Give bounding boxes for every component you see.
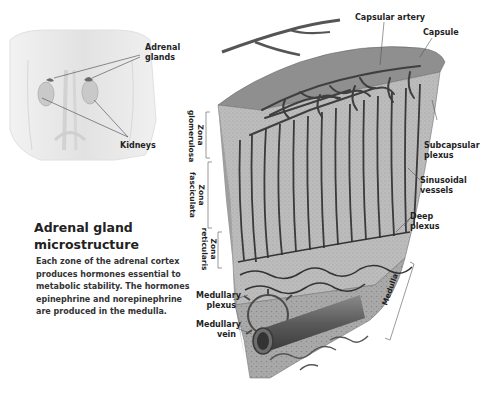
label-capsular-artery: Capsular artery bbox=[355, 13, 425, 23]
right-kidney bbox=[82, 80, 98, 104]
label-glomerulosa-line2: glomerulosa bbox=[187, 110, 196, 160]
label-sinusoidal-vessels: Sinusoidal vessels bbox=[420, 176, 467, 196]
label-subcapsular-line1: Subcapsular bbox=[424, 141, 480, 151]
label-capsule: Capsule bbox=[423, 28, 459, 38]
adrenal-tissue-block bbox=[206, 20, 445, 378]
label-medullary-vein: Medullary vein bbox=[196, 320, 236, 340]
label-medullary-vein-line2: vein bbox=[196, 330, 236, 340]
description-line: metabolic stability. The hormones bbox=[36, 281, 196, 294]
label-medullary-plexus: Medullary plexus bbox=[196, 291, 236, 311]
description-line: Each zone of the adrenal cortex bbox=[36, 256, 196, 269]
label-zona-fasciculata: Zona fasciculata bbox=[188, 170, 206, 220]
label-reticularis-line1: Zona bbox=[209, 224, 218, 274]
label-subcapsular-line2: plexus bbox=[424, 151, 480, 161]
figure-title: Adrenal gland microstructure bbox=[34, 219, 139, 253]
label-reticularis-line2: reticularis bbox=[200, 224, 209, 274]
label-subcapsular-plexus: Subcapsular plexus bbox=[424, 141, 480, 161]
label-medullary-plexus-line1: Medullary bbox=[196, 291, 236, 301]
label-deep-line1: Deep bbox=[410, 212, 440, 222]
label-zona-reticularis: Zona reticularis bbox=[200, 224, 218, 274]
label-deep-plexus: Deep plexus bbox=[410, 212, 440, 232]
label-kidneys: Kidneys bbox=[120, 141, 156, 151]
label-glomerulosa-line1: Zona bbox=[196, 110, 205, 160]
description-line: are produced in the medulla. bbox=[36, 306, 196, 319]
label-sinusoidal-line1: Sinusoidal bbox=[420, 176, 467, 186]
label-adrenal-glands: Adrenal glands bbox=[145, 43, 180, 63]
figure-description: Each zone of the adrenal cortex produces… bbox=[36, 256, 196, 319]
label-medullary-vein-line1: Medullary bbox=[196, 320, 236, 330]
figure-title-line2: microstructure bbox=[34, 236, 139, 253]
label-deep-line2: plexus bbox=[410, 222, 440, 232]
capsular-artery-vessel bbox=[222, 20, 340, 52]
description-line: epinephrine and norepinephrine bbox=[36, 294, 196, 307]
label-adrenal-glands-line1: Adrenal bbox=[145, 43, 180, 53]
label-zona-glomerulosa: Zona glomerulosa bbox=[187, 110, 205, 160]
label-sinusoidal-line2: vessels bbox=[420, 186, 467, 196]
figure-title-line1: Adrenal gland bbox=[34, 219, 139, 236]
description-line: produces hormones essential to bbox=[36, 269, 196, 282]
label-medullary-plexus-line2: plexus bbox=[196, 301, 236, 311]
label-adrenal-glands-line2: glands bbox=[145, 53, 180, 63]
label-fasciculata-line1: Zona bbox=[197, 170, 206, 220]
label-fasciculata-line2: fasciculata bbox=[188, 170, 197, 220]
diagram-illustration bbox=[0, 0, 493, 400]
